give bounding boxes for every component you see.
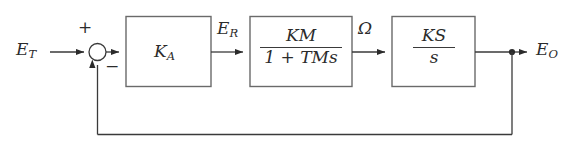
motor-numerator: KM (260, 27, 342, 45)
block-label-integrator: KS s (413, 27, 455, 67)
summing-junction-minus-sign: − (105, 58, 119, 75)
summing-junction-plus-sign: + (78, 19, 92, 36)
block-label-amplifier: KA (154, 43, 175, 63)
integrator-denominator: s (413, 49, 455, 67)
wire-output (475, 49, 527, 55)
signal-label-input: ET (16, 41, 36, 61)
summing-junction-circle (89, 44, 106, 61)
motor-denominator: 1 + TMs (260, 49, 342, 67)
signal-label-output: EO (536, 41, 558, 61)
block-diagram: ET + − KA ER KM 1 + TMs Ω KS s EO (0, 0, 576, 151)
integrator-numerator: KS (413, 27, 455, 45)
block-label-motor: KM 1 + TMs (260, 27, 342, 67)
signal-label-amplifier-output: ER (217, 20, 238, 40)
signal-label-motor-output: Ω (358, 20, 372, 37)
